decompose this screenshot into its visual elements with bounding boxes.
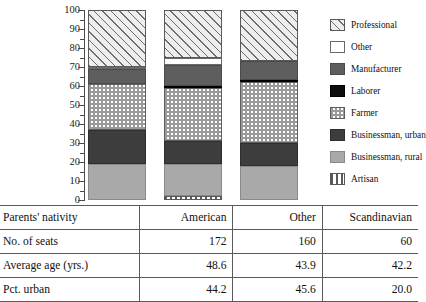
y-axis-tick-label: 60 bbox=[58, 81, 80, 91]
bar-segment-bus-rural[interactable] bbox=[88, 164, 146, 200]
legend-item-bus-rural[interactable]: Businessman, rural bbox=[330, 146, 418, 168]
legend-swatch-other-icon bbox=[330, 41, 345, 53]
table-cell-american: 172 bbox=[140, 230, 233, 254]
bar-segment-professional[interactable] bbox=[240, 10, 298, 61]
y-axis-tick-label: 30 bbox=[58, 138, 80, 148]
legend-label: Artisan bbox=[351, 174, 378, 184]
legend-label: Other bbox=[351, 42, 372, 52]
y-axis-tick-labels: 1009080706050403020100 bbox=[56, 0, 80, 205]
legend-label: Businessman, rural bbox=[351, 152, 422, 162]
legend-swatch-farmer-icon bbox=[330, 107, 345, 119]
table-cell-other: 45.6 bbox=[233, 278, 322, 302]
legend-item-artisan[interactable]: Artisan bbox=[330, 168, 418, 190]
bar-segment-laborer[interactable] bbox=[240, 80, 298, 82]
legend-label: Businessman, urban bbox=[351, 130, 426, 140]
y-axis-tick-label: 50 bbox=[58, 100, 80, 110]
bar-scandinavian[interactable] bbox=[240, 10, 298, 200]
bar-segment-bus-urban[interactable] bbox=[88, 130, 146, 164]
bar-segment-farmer[interactable] bbox=[240, 82, 298, 143]
y-axis-tick-label: 0 bbox=[58, 195, 80, 205]
bar-segment-bus-rural[interactable] bbox=[240, 166, 298, 200]
table-cell-label: Pct. urban bbox=[0, 278, 140, 302]
table-header-row: Parents' nativityAmericanOtherScandinavi… bbox=[0, 206, 418, 230]
y-axis-tick-label: 70 bbox=[58, 62, 80, 72]
table-header-cell: Parents' nativity bbox=[0, 206, 140, 230]
table-cell-american: 48.6 bbox=[140, 254, 233, 278]
legend-swatch-bus-rural-icon bbox=[330, 151, 345, 163]
y-axis-tick-label: 90 bbox=[58, 24, 80, 34]
bar-segment-farmer[interactable] bbox=[88, 84, 146, 130]
bar-segment-manufacturer[interactable] bbox=[88, 69, 146, 84]
legend-swatch-bus-urban-icon bbox=[330, 129, 345, 141]
table-cell-label: No. of seats bbox=[0, 230, 140, 254]
bar-segment-professional[interactable] bbox=[164, 10, 222, 58]
table-cell-other: 160 bbox=[233, 230, 322, 254]
legend-swatch-laborer-icon bbox=[330, 85, 345, 97]
bar-other[interactable] bbox=[164, 10, 222, 200]
legend-item-bus-urban[interactable]: Businessman, urban bbox=[330, 124, 418, 146]
legend-item-farmer[interactable]: Farmer bbox=[330, 102, 418, 124]
y-axis-tick-label: 20 bbox=[58, 157, 80, 167]
table-header-cell: Other bbox=[233, 206, 322, 230]
table-row: Pct. urban44.245.620.0 bbox=[0, 278, 418, 302]
legend-item-laborer[interactable]: Laborer bbox=[330, 80, 418, 102]
table-cell-other: 43.9 bbox=[233, 254, 322, 278]
bar-segment-bus-rural[interactable] bbox=[164, 164, 222, 196]
bar-segment-bus-urban[interactable] bbox=[164, 141, 222, 164]
legend-label: Manufacturer bbox=[351, 64, 402, 74]
bar-segment-professional[interactable] bbox=[88, 10, 146, 67]
legend-swatch-professional-icon bbox=[330, 19, 345, 31]
bar-segment-manufacturer[interactable] bbox=[164, 65, 222, 86]
legend-label: Farmer bbox=[351, 108, 378, 118]
bar-segment-farmer[interactable] bbox=[164, 88, 222, 141]
bar-segment-bus-urban[interactable] bbox=[240, 143, 298, 166]
plot-area bbox=[85, 10, 300, 200]
legend-label: Professional bbox=[351, 20, 397, 30]
legend-swatch-artisan-icon bbox=[330, 173, 345, 185]
table-cell-scandinavian: 42.2 bbox=[322, 254, 418, 278]
table-cell-american: 44.2 bbox=[140, 278, 233, 302]
table-cell-label: Average age (yrs.) bbox=[0, 254, 140, 278]
table-row: No. of seats17216060 bbox=[0, 230, 418, 254]
legend-item-manufacturer[interactable]: Manufacturer bbox=[330, 58, 418, 80]
legend-item-other[interactable]: Other bbox=[330, 36, 418, 58]
bar-segment-artisan[interactable] bbox=[164, 196, 222, 200]
y-axis-tick-label: 80 bbox=[58, 43, 80, 53]
legend-item-professional[interactable]: Professional bbox=[330, 14, 418, 36]
y-axis-tick-label: 10 bbox=[58, 176, 80, 186]
table-header-cell: American bbox=[140, 206, 233, 230]
data-table: Parents' nativityAmericanOtherScandinavi… bbox=[0, 205, 418, 302]
y-axis-tick-label: 100 bbox=[58, 5, 80, 15]
bar-segment-other[interactable] bbox=[88, 67, 146, 69]
stacked-bar-chart: 1009080706050403020100 bbox=[0, 0, 300, 205]
table-header-cell: Scandinavian bbox=[322, 206, 418, 230]
legend-label: Laborer bbox=[351, 86, 380, 96]
bar-segment-manufacturer[interactable] bbox=[240, 61, 298, 80]
bar-segment-laborer[interactable] bbox=[164, 86, 222, 88]
table-cell-scandinavian: 60 bbox=[322, 230, 418, 254]
table-cell-scandinavian: 20.0 bbox=[322, 278, 418, 302]
bar-american[interactable] bbox=[88, 10, 146, 200]
bar-segment-other[interactable] bbox=[164, 58, 222, 66]
y-axis-tick-label: 40 bbox=[58, 119, 80, 129]
table-row: Average age (yrs.)48.643.942.2 bbox=[0, 254, 418, 278]
legend-swatch-manufacturer-icon bbox=[330, 63, 345, 75]
chart-legend: ProfessionalOtherManufacturerLaborerFarm… bbox=[330, 14, 418, 190]
